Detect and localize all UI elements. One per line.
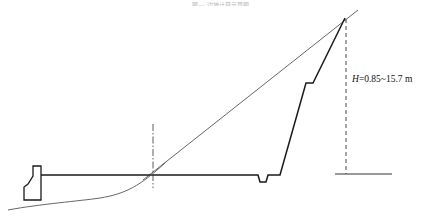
slope-outline (40, 18, 345, 182)
retaining-block (24, 166, 41, 200)
slip-line (143, 10, 358, 180)
height-label: H=0.85~15.7 m (352, 74, 412, 84)
height-value: =0.85~15.7 m (359, 74, 413, 84)
slope-diagram (0, 0, 423, 220)
height-variable: H (352, 74, 359, 84)
